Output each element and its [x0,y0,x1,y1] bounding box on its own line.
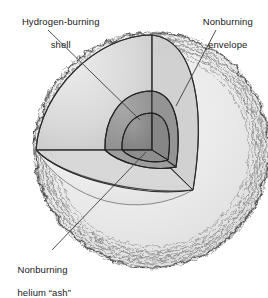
label-helium-line1-text: Nonburning [17,264,67,275]
label-nonburning-helium-ash-line2: helium “ash” [17,287,70,298]
label-nonburning-helium-ash-line1: Nonburning [17,264,67,275]
label-nonburning-helium-ash: Nonburning helium “ash” [12,252,122,298]
label-hydrogen-burning-shell-line1: Hydrogen-burning [22,16,100,27]
label-nonburning-envelope-line1: Nonburning [203,16,253,27]
label-nonburning-envelope: Nonburning envelope [186,4,264,50]
label-hydrogen-burning-shell: Hydrogen-burning shell [6,4,110,50]
label-hydrogen-burning-shell-line2: shell [51,39,71,50]
label-nonburning-envelope-line2: envelope [208,39,247,50]
